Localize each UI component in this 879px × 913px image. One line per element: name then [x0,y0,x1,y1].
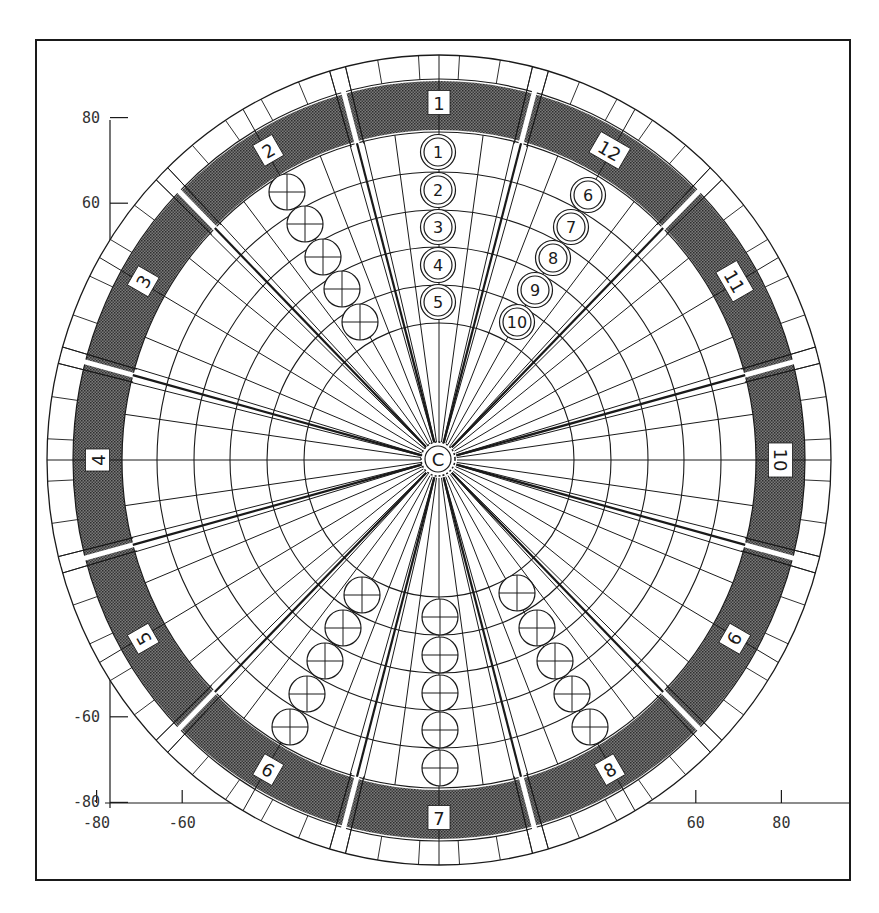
numbered-position-8: 8 [536,241,571,276]
crossed-position [422,675,458,711]
numbered-position-3: 3 [421,210,456,245]
numbered-position-1: 1 [421,135,456,170]
x-tick-label: -80 [83,814,110,832]
x-tick-label: 60 [687,814,705,832]
center-marker: C [421,442,455,476]
crossed-position [342,304,378,340]
crossed-position [537,643,573,679]
crossed-position [289,676,325,712]
crossed-position [287,206,323,242]
crossed-position [307,643,343,679]
position-number: 5 [433,293,443,312]
sector-label-10: 10 [769,443,793,477]
y-tick-label: 60 [82,194,100,212]
crossed-position [422,637,458,673]
crossed-position [422,599,458,635]
position-number: 3 [433,218,443,237]
position-number: 6 [583,186,593,205]
diagram-canvas: -80-6060808060-4-60-80 12345678910 12345… [0,0,879,913]
crossed-position [422,750,458,786]
sector-label-4: 4 [86,449,110,471]
numbered-position-6: 6 [571,178,606,213]
crossed-position [269,174,305,210]
numbered-position-10: 10 [500,305,535,340]
sector-label-text: 7 [433,808,444,829]
numbered-position-9: 9 [518,273,553,308]
crossed-position [325,610,361,646]
sector-label-7: 7 [428,806,450,830]
position-number: 7 [566,218,576,237]
crossed-position [422,712,458,748]
sector-label-text: 1 [433,93,444,114]
crossed-position [519,610,555,646]
sector-label-text: 10 [770,449,791,472]
crossed-position [305,239,341,275]
numbered-position-4: 4 [421,248,456,283]
y-tick-label: 80 [82,109,100,127]
position-number: 9 [530,281,540,300]
position-number: 4 [433,256,443,275]
y-tick-label: -80 [73,793,100,811]
sector-label-text: 4 [88,454,109,465]
numbered-position-2: 2 [421,173,456,208]
crossed-position [344,577,380,613]
crossed-position [554,676,590,712]
y-tick-label: -60 [73,708,100,726]
position-number: 1 [433,143,443,162]
crossed-position [272,709,308,745]
crossed-position [572,709,608,745]
crossed-position [499,575,535,611]
numbered-position-7: 7 [554,210,589,245]
numbered-position-5: 5 [421,285,456,320]
sector-label-1: 1 [428,91,450,115]
position-number: 2 [433,181,443,200]
position-number: 8 [548,249,558,268]
center-label: C [432,449,445,470]
x-tick-label: 80 [772,814,790,832]
crossed-position [324,271,360,307]
position-number: 10 [507,313,527,332]
polar-sector-diagram: -80-6060808060-4-60-80 12345678910 12345… [0,0,879,913]
x-tick-label: -60 [169,814,196,832]
